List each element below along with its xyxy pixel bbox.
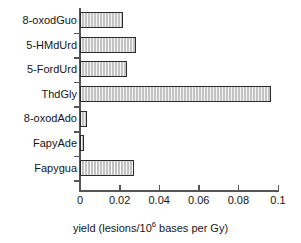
bar-chart: 8-oxodGuo 5-HMdUrd 5-FordUrd ThdGly 8-ox…: [0, 0, 301, 243]
bar-Fapygua: [80, 160, 134, 176]
x-axis-title-suffix: bases per Gy): [156, 222, 228, 234]
x-axis-title-prefix: yield (lesions/10: [73, 222, 152, 234]
x-tick-1: [119, 185, 121, 191]
bar-5-HMdUrd: [80, 37, 136, 53]
x-axis-title: yield (lesions/106 bases per Gy): [0, 222, 301, 234]
bar-8-oxodAdo: [80, 111, 87, 127]
x-tick-5: [278, 185, 280, 191]
y-axis-label-5: FapyAde: [0, 131, 77, 156]
bar-row: [80, 131, 278, 156]
x-tick-0: [80, 185, 82, 191]
bar-row: [80, 156, 278, 181]
x-tick-2: [159, 185, 161, 191]
bar-8-oxodGuo: [80, 12, 123, 28]
bar-row: [80, 106, 278, 131]
bar-FapyAde: [80, 135, 84, 151]
bar-row: [80, 8, 278, 33]
bar-5-FordUrd: [80, 61, 127, 77]
y-axis-label-1: 5-HMdUrd: [0, 33, 77, 58]
y-axis-label-2: 5-FordUrd: [0, 57, 77, 82]
y-axis-label-3: ThdGly: [0, 82, 77, 107]
bar-row: [80, 82, 278, 107]
bar-row: [80, 57, 278, 82]
bar-ThdGly: [80, 86, 271, 102]
x-tick-3: [198, 185, 200, 191]
x-axis-line: [79, 190, 279, 192]
y-axis-label-4: 8-oxodAdo: [0, 106, 77, 131]
bar-row: [80, 33, 278, 58]
y-axis-label-6: Fapygua: [0, 156, 77, 181]
plot-area: [80, 8, 278, 190]
y-axis-label-0: 8-oxodGuo: [0, 8, 77, 33]
x-tick-label-5: 0.1: [248, 194, 301, 206]
x-tick-4: [238, 185, 240, 191]
